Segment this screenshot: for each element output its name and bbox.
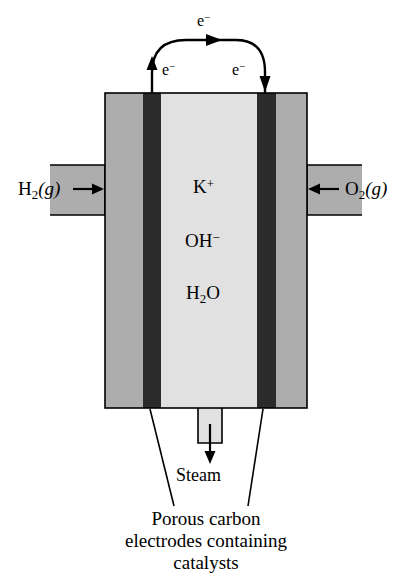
right-electrode [257, 93, 276, 408]
species-hydroxide-ion: OH− [185, 231, 220, 250]
left-electrode [143, 93, 161, 408]
electron-label-right: e− [232, 61, 245, 78]
oxygen-gas-label: O2(g) [345, 179, 387, 202]
left-electrode-leader-line [150, 409, 174, 506]
electron-label-left: e− [162, 61, 175, 78]
electron-label-top: e− [197, 12, 210, 29]
hydrogen-gas-label: H2(g) [18, 179, 60, 202]
electron-arrow-up [147, 56, 158, 70]
hydrogen-compartment [105, 93, 143, 408]
steam-label: Steam [176, 466, 221, 484]
caption-line-1: Porous carbon [0, 508, 412, 530]
species-potassium-ion: K+ [193, 177, 214, 196]
right-electrode-leader-line [248, 409, 263, 506]
fuel-cell-diagram: e− e− e− H2(g) O2(g) K+ OH− H2O Steam Po… [0, 0, 412, 581]
electron-arrow-down [260, 76, 271, 92]
oxygen-compartment [276, 93, 307, 408]
species-water: H2O [186, 283, 220, 306]
caption-line-2: electrodes containing [0, 530, 412, 552]
caption-line-3: catalysts [0, 552, 412, 574]
electron-arrow-right [206, 34, 222, 46]
